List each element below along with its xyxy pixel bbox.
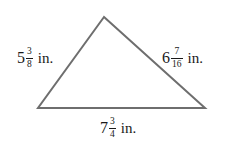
right-side-unit: in. xyxy=(188,51,203,66)
right-side-whole: 6 xyxy=(162,50,170,66)
left-side-unit: in. xyxy=(38,51,53,66)
bottom-side-fraction: 3 4 xyxy=(109,117,116,139)
bottom-side-whole: 7 xyxy=(100,120,108,136)
left-side-whole: 5 xyxy=(17,50,25,66)
left-side-label: 5 3 8 in. xyxy=(17,47,53,69)
right-side-fraction: 7 16 xyxy=(171,47,183,69)
right-side-label: 6 7 16 in. xyxy=(162,47,203,69)
bottom-side-label: 7 3 4 in. xyxy=(100,117,136,139)
left-side-fraction: 3 8 xyxy=(26,47,33,69)
bottom-side-unit: in. xyxy=(121,121,136,136)
